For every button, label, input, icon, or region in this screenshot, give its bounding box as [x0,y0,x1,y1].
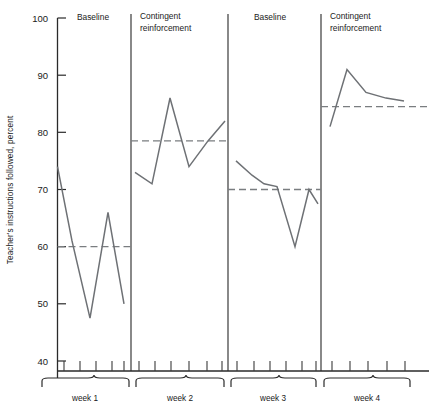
chart-container: Teacher's instructions followed, percent… [0,0,429,413]
y-axis-label: Teacher's instructions followed, percent [6,115,15,264]
phase-label-baseline-1: Baseline [77,12,109,22]
y-tick-label-50: 50 [37,298,48,309]
y-tick-label-90: 90 [37,70,48,81]
y-tick-label-80: 80 [37,127,48,138]
y-tick-label-60: 60 [37,241,48,252]
single-subject-line-chart: Teacher's instructions followed, percent… [0,0,429,413]
week-label-1: week 1 [71,394,98,403]
phase-label-contingent-1-line2: reinforcement [140,23,192,33]
x-axis-session-ticks [64,361,405,371]
week-label-4: week 4 [353,394,380,403]
data-line-phase-3 [236,161,318,247]
y-tick-label-70: 70 [37,184,48,195]
phase-divider-lines [131,14,321,371]
week-bracket-1 [42,375,129,387]
phase-label-baseline-2: Baseline [254,12,286,22]
week-label-2: week 2 [166,394,193,403]
y-tick-label-40: 40 [37,356,48,367]
data-line-phase-1 [58,167,125,319]
phase-mean-lines [58,107,429,247]
week-bracket-4 [324,375,410,387]
phase-label-contingent-2-line2: reinforcement [330,23,382,33]
y-tick-label-100: 100 [32,13,48,24]
week-bracket-3 [231,375,316,387]
phase-label-contingent-1-line1: Contingent [140,11,181,21]
phase-label-contingent-2-line1: Contingent [330,11,371,21]
week-bracket-2 [136,375,224,387]
week-brackets [42,375,410,387]
data-series-lines [58,70,405,319]
data-line-phase-4 [330,70,404,127]
week-label-3: week 3 [259,394,286,403]
